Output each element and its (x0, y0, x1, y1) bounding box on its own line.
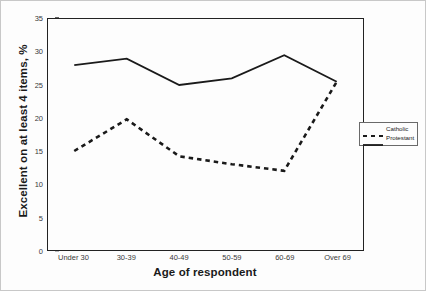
legend-item-protestant: Protestant (362, 134, 414, 143)
x-axis-title: Age of respondent (45, 266, 365, 278)
plot-area (47, 18, 364, 251)
legend-swatch-dashed (362, 126, 384, 134)
chart-legend: CatholicProtestant (359, 122, 418, 146)
legend-label: Catholic (386, 126, 408, 132)
y-tick-label: 10 (17, 180, 43, 189)
legend-item-catholic: Catholic (362, 125, 414, 134)
series-line-protestant (74, 55, 336, 85)
line-chart-figure: Excellent on at least 4 items, % 0510152… (0, 0, 426, 291)
series-line-catholic (74, 82, 336, 171)
legend-label: Protestant (386, 135, 414, 141)
y-tick-label: 15 (17, 147, 43, 156)
y-tick-label: 35 (17, 14, 43, 23)
x-tick-label: Over 69 (303, 253, 373, 262)
plot-series-svg (48, 19, 363, 250)
x-axis-tick-labels: Under 3030-3940-4950-5960-69Over 69 (47, 253, 364, 267)
y-axis-tick-labels: 05101520253035 (13, 18, 43, 251)
y-tick-label: 5 (17, 213, 43, 222)
legend-swatch-solid (362, 135, 384, 143)
y-tick-label: 25 (17, 80, 43, 89)
y-tick-label: 30 (17, 47, 43, 56)
y-tick-label: 20 (17, 113, 43, 122)
